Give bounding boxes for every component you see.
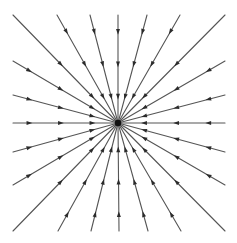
field-line-diagram — [0, 0, 237, 243]
arrowhead-icon — [58, 105, 64, 109]
arrowhead-icon — [132, 93, 137, 99]
arrowhead-icon — [173, 105, 179, 109]
arrowhead-icon — [205, 97, 211, 101]
arrowhead-icon — [89, 114, 95, 118]
arrowhead-icon — [93, 211, 97, 217]
arrowhead-icon — [124, 147, 128, 153]
arrowhead-icon — [63, 28, 68, 34]
central-charge-point — [115, 120, 121, 126]
arrowhead-icon — [173, 121, 179, 125]
arrowhead-icon — [64, 212, 69, 218]
arrowhead-icon — [205, 146, 211, 150]
arrowhead-icon — [82, 179, 87, 185]
arrowhead-icon — [26, 146, 32, 150]
radial-field-lines-svg — [0, 0, 237, 243]
arrowhead-icon — [150, 61, 155, 67]
arrowhead-icon — [151, 179, 156, 185]
arrowhead-icon — [141, 129, 147, 133]
arrowhead-icon — [141, 29, 145, 35]
arrowhead-icon — [141, 121, 147, 125]
arrowhead-icon — [116, 61, 120, 67]
arrowhead-icon — [26, 67, 32, 72]
arrowhead-icon — [100, 147, 105, 153]
arrowhead-icon — [132, 147, 137, 153]
arrowhead-icon — [57, 155, 63, 160]
arrowhead-icon — [57, 86, 63, 91]
arrowhead-icon — [116, 146, 120, 152]
arrowhead-icon — [142, 105, 148, 110]
arrowhead-icon — [89, 129, 95, 133]
arrowhead-icon — [89, 137, 95, 142]
arrowhead-icon — [27, 121, 33, 125]
arrowhead-icon — [82, 61, 87, 67]
arrowhead-icon — [109, 147, 113, 153]
arrowhead-icon — [142, 137, 148, 142]
arrowhead-icon — [174, 86, 180, 91]
arrowhead-icon — [117, 179, 121, 185]
arrowhead-icon — [90, 121, 96, 125]
arrowhead-icon — [100, 61, 104, 67]
arrowhead-icon — [142, 211, 146, 217]
arrowhead-icon — [206, 68, 212, 73]
arrowhead-icon — [116, 29, 120, 35]
arrowhead-icon — [206, 174, 212, 179]
arrowhead-icon — [109, 93, 113, 99]
arrowhead-icon — [169, 28, 174, 34]
arrowhead-icon — [92, 29, 96, 35]
arrowhead-icon — [133, 61, 137, 67]
arrowhead-icon — [205, 121, 211, 125]
arrowhead-icon — [58, 138, 64, 142]
arrowhead-icon — [124, 93, 128, 99]
arrowhead-icon — [141, 114, 147, 118]
arrowhead-icon — [117, 211, 121, 217]
arrowhead-icon — [173, 138, 179, 142]
arrowhead-icon — [174, 155, 180, 160]
arrowhead-icon — [89, 105, 95, 110]
arrowhead-icon — [26, 97, 32, 101]
arrowhead-icon — [58, 121, 64, 125]
arrowhead-icon — [133, 179, 137, 185]
arrowhead-icon — [100, 93, 105, 99]
arrowhead-icon — [116, 94, 120, 100]
arrowhead-icon — [26, 174, 32, 179]
arrowhead-icon — [101, 179, 105, 185]
arrowhead-icon — [170, 212, 175, 218]
